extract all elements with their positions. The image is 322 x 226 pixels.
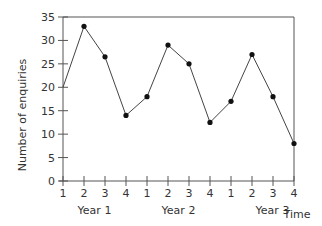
data-point-marker	[144, 94, 149, 99]
x-axis: 123412341234Year 1Year 2Year 3	[59, 176, 298, 217]
x-tick-label: 3	[270, 187, 277, 200]
line-chart: 05101520253035 123412341234Year 1Year 2Y…	[0, 0, 322, 226]
y-tick-label: 25	[41, 58, 55, 71]
x-tick-label: 1	[144, 187, 151, 200]
x-tick-label: 4	[207, 187, 214, 200]
data-point-marker	[165, 43, 170, 48]
y-axis: 05101520253035	[41, 11, 68, 188]
x-axis-label: Time	[283, 208, 311, 221]
y-tick-label: 20	[41, 81, 55, 94]
data-point-marker	[123, 113, 128, 118]
x-tick-label: 4	[123, 187, 130, 200]
x-tick-label: 2	[81, 187, 88, 200]
data-point-marker	[207, 120, 212, 125]
x-tick-label: 1	[228, 187, 235, 200]
plot-frame	[63, 17, 294, 181]
data-point-marker	[81, 24, 86, 29]
y-tick-label: 35	[41, 11, 55, 24]
data-point-marker	[102, 54, 107, 59]
y-tick-label: 5	[48, 152, 55, 165]
data-point-marker	[249, 52, 254, 57]
y-tick-label: 10	[41, 128, 55, 141]
year-label: Year 1	[77, 204, 112, 217]
x-tick-label: 1	[60, 187, 67, 200]
y-tick-label: 0	[48, 175, 55, 188]
data-point-marker	[270, 94, 275, 99]
y-tick-label: 30	[41, 34, 55, 47]
x-tick-label: 4	[291, 187, 298, 200]
data-point-marker	[291, 141, 296, 146]
x-tick-label: 3	[186, 187, 193, 200]
data-point-marker	[186, 61, 191, 66]
series-line	[63, 26, 294, 143]
x-tick-label: 2	[165, 187, 172, 200]
y-axis-label: Number of enquiries	[16, 58, 29, 171]
data-series	[63, 24, 297, 146]
y-tick-label: 15	[41, 105, 55, 118]
year-label: Year 2	[161, 204, 196, 217]
x-tick-label: 3	[102, 187, 109, 200]
data-point-marker	[228, 99, 233, 104]
x-tick-label: 2	[249, 187, 256, 200]
